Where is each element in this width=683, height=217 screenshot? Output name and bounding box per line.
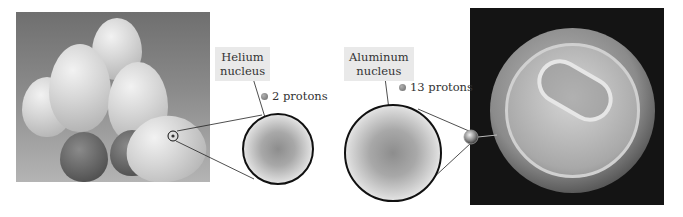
aluminum-nucleus-circle: [344, 104, 442, 202]
helium-nucleus-circle: [242, 113, 314, 185]
proton-dot-icon: [261, 93, 268, 100]
balloon-zoom-dot: [171, 134, 174, 137]
can-zoom-sphere: [464, 130, 478, 144]
helium-nucleus-label: Helium nucleus: [215, 47, 270, 81]
helium-proton-text: 2 protons: [272, 89, 328, 103]
can-nucleus-pointer: [478, 135, 497, 137]
aluminum-proton-text: 13 protons: [410, 80, 473, 94]
aluminum-nucleus-label: Aluminum nucleus: [344, 47, 414, 81]
helium-proton-count: 2 protons: [261, 89, 328, 103]
proton-dot-icon: [399, 84, 406, 91]
aluminum-proton-count: 13 protons: [399, 80, 473, 94]
aluminum-label-line2: nucleus: [349, 64, 409, 78]
aluminum-label-line1: Aluminum: [349, 50, 409, 64]
helium-label-line2: nucleus: [220, 64, 265, 78]
helium-label-line1: Helium: [220, 50, 265, 64]
connector-lines: [0, 0, 683, 217]
